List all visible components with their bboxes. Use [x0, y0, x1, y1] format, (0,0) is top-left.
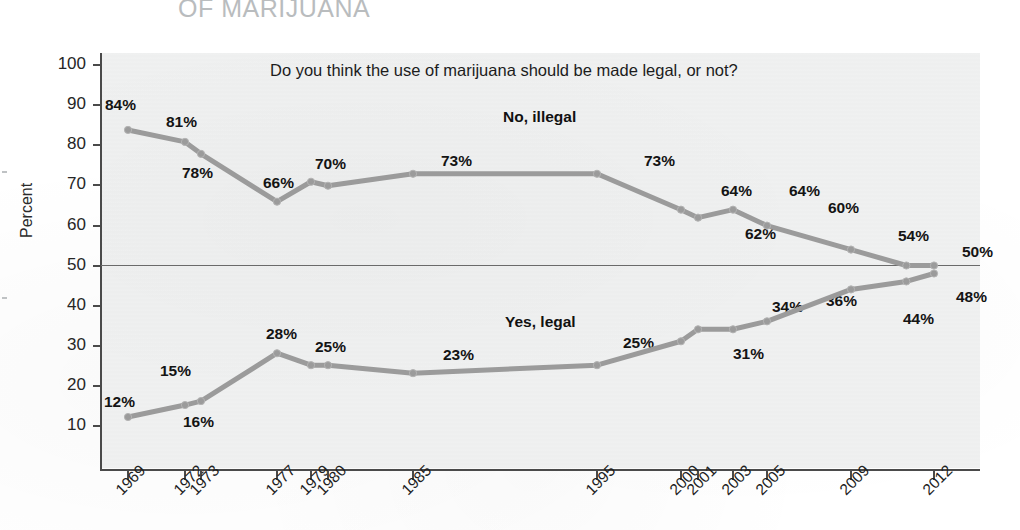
data-point-marker [677, 206, 684, 213]
data-point-marker [677, 338, 684, 345]
data-point-marker [763, 318, 770, 325]
data-point-marker [593, 362, 600, 369]
data-point-marker [197, 397, 204, 404]
data-point-marker [847, 246, 854, 253]
data-point-marker [197, 150, 204, 157]
data-point-marker [307, 362, 314, 369]
chart-page: OF MARIJUANA Percent Do you think the us… [0, 0, 1020, 530]
data-point-marker [593, 170, 600, 177]
data-point-marker [307, 178, 314, 185]
data-point-marker [409, 170, 416, 177]
data-point-marker [124, 413, 131, 420]
line-series-illegal [128, 130, 934, 266]
data-point-marker [124, 126, 131, 133]
data-point-marker [694, 326, 701, 333]
data-point-marker [181, 138, 188, 145]
data-point-marker [694, 214, 701, 221]
data-point-marker [273, 350, 280, 357]
data-point-marker [847, 286, 854, 293]
data-point-marker [729, 326, 736, 333]
line-series-legal [128, 273, 934, 417]
markers-series-illegal [124, 126, 937, 269]
data-point-marker [903, 278, 910, 285]
markers-series-legal [124, 270, 937, 421]
data-point-marker [930, 262, 937, 269]
data-point-marker [324, 362, 331, 369]
data-point-marker [273, 198, 280, 205]
data-point-marker [763, 222, 770, 229]
data-point-marker [729, 206, 736, 213]
data-point-marker [903, 262, 910, 269]
chart-lines-overlay [0, 0, 1020, 530]
data-point-marker [409, 370, 416, 377]
data-point-marker [181, 401, 188, 408]
data-point-marker [930, 270, 937, 277]
data-point-marker [324, 182, 331, 189]
